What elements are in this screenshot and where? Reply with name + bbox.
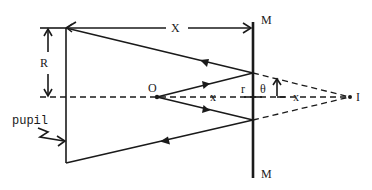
ray-diagram: X R M M O I x x r θ pupil <box>0 0 372 190</box>
incident-upper-arrow-icon <box>202 81 210 89</box>
image-point-i <box>348 95 352 99</box>
label-x-image: x <box>293 90 299 104</box>
pupil-pointer-squiggle <box>38 128 64 141</box>
label-mirror-bottom: M <box>261 167 272 181</box>
virtual-ray-lower <box>253 97 350 120</box>
pupil-corner-tick <box>66 22 76 28</box>
reflected-ray-upper <box>66 28 253 73</box>
label-r: R <box>40 56 48 70</box>
label-r-small: r <box>241 82 245 96</box>
reflected-ray-lower <box>66 120 253 163</box>
label-i: I <box>356 90 360 104</box>
label-x-object: x <box>210 90 216 104</box>
label-o: O <box>148 81 157 95</box>
reflected-upper-arrow-icon <box>200 59 209 67</box>
label-pupil: pupil <box>12 114 48 128</box>
label-mirror-top: M <box>261 13 272 27</box>
virtual-ray-upper <box>253 73 350 97</box>
label-x-upper: X <box>171 21 180 35</box>
label-theta: θ <box>260 82 266 96</box>
